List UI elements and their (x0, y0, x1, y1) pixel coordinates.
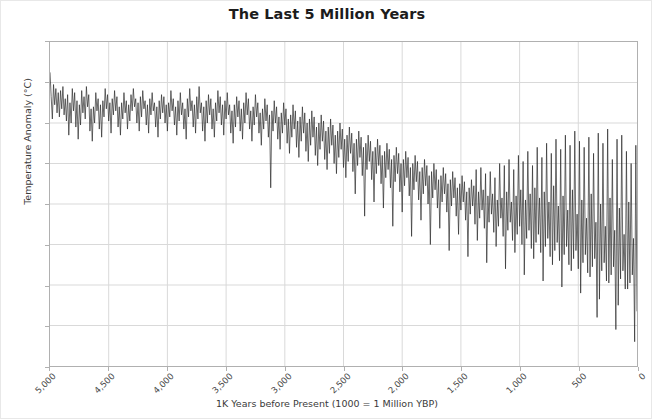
x-axis-label: 1K Years before Present (1000 = 1 Millio… (1, 398, 652, 409)
chart-title: The Last 5 Million Years (1, 6, 652, 22)
x-tick-label: 2,500 (328, 371, 352, 395)
x-tick-mark (344, 367, 345, 371)
x-tick-label: 5,000 (33, 371, 57, 395)
x-tick-mark (579, 367, 580, 371)
x-tick-label: 4,500 (92, 371, 116, 395)
x-tick-label: 1,000 (504, 371, 528, 395)
x-tick-mark (638, 367, 639, 371)
x-tick-label: 4,000 (151, 371, 175, 395)
x-tick-label: 2,000 (387, 371, 411, 395)
x-tick-label: 500 (570, 371, 589, 390)
x-tick-label: 3,000 (269, 371, 293, 395)
x-tick-label: 3,500 (210, 371, 234, 395)
x-tick-mark (108, 367, 109, 371)
x-tick-mark (285, 367, 286, 371)
chart-figure: The Last 5 Million Years Temperature Ano… (0, 0, 652, 419)
x-tick-mark (402, 367, 403, 371)
data-series-line (50, 42, 637, 366)
y-axis-label: Temperature Anomaly (°C) (22, 32, 33, 252)
x-tick-mark (461, 367, 462, 371)
x-tick-label: 1,500 (446, 371, 470, 395)
x-tick-mark (226, 367, 227, 371)
x-tick-mark (167, 367, 168, 371)
x-tick-mark (49, 367, 50, 371)
plot-area (49, 41, 638, 367)
x-tick-label: 0 (637, 371, 648, 382)
x-tick-mark (520, 367, 521, 371)
